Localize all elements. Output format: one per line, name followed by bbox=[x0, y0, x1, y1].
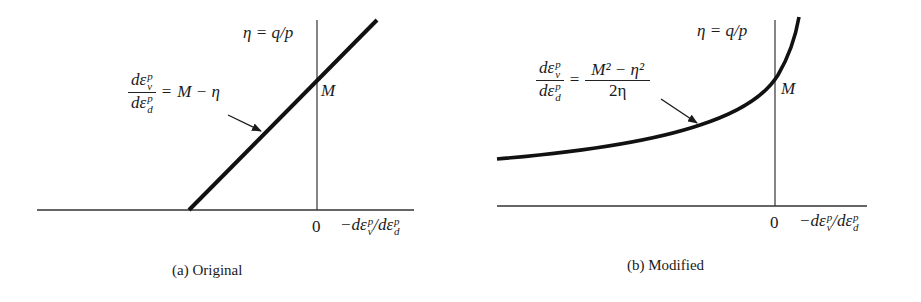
panel-b-rhs-denominator: 2η bbox=[606, 81, 629, 101]
panel-a-lhs-fraction: dεpv dεpd bbox=[128, 70, 156, 114]
panel-b-rhs-fraction: M² − η² 2η bbox=[585, 60, 650, 100]
panel-b-equals: = bbox=[570, 70, 580, 90]
panel-a-plot bbox=[37, 20, 414, 210]
panel-a-linear-curve bbox=[189, 20, 377, 210]
panel-a-equals: = bbox=[162, 82, 172, 102]
panel-a-y-axis-label: η = q/p bbox=[243, 24, 293, 41]
panel-b-plot bbox=[497, 17, 867, 206]
panel-b-lhs-numerator: dεpv bbox=[536, 58, 564, 80]
panel-b-arrow bbox=[661, 99, 697, 123]
panel-a-origin-label: 0 bbox=[312, 218, 321, 235]
panel-a-caption: (a) Original bbox=[172, 262, 242, 279]
figure-canvas bbox=[0, 0, 921, 302]
panel-a-rhs: M − η bbox=[177, 82, 220, 102]
panel-b-caption: (b) Modified bbox=[627, 257, 704, 274]
panel-b-y-axis-label: η = q/p bbox=[697, 22, 747, 39]
panel-b-x-axis-label: −dεpv/dεpd bbox=[799, 212, 859, 233]
panel-b-lhs-denominator: dεpd bbox=[536, 81, 564, 103]
panel-a-lhs-denominator: dεpd bbox=[128, 93, 156, 115]
panel-b-lhs-fraction: dεpv dεpd bbox=[536, 58, 564, 102]
panel-b-intercept-label: M bbox=[781, 80, 795, 97]
panel-a-x-axis-label: −dεpv/dεpd bbox=[340, 216, 400, 237]
panel-b-rhs-numerator: M² − η² bbox=[585, 60, 650, 80]
panel-a-arrow bbox=[228, 115, 261, 131]
panel-a-intercept-label: M bbox=[321, 82, 335, 99]
panel-b-origin-label: 0 bbox=[770, 214, 779, 231]
panel-a-lhs-numerator: dεpv bbox=[128, 70, 156, 92]
panel-b-equation: dεpv dεpd = M² − η² 2η bbox=[536, 58, 650, 102]
panel-a-equation: dεpv dεpd = M − η bbox=[128, 70, 220, 114]
